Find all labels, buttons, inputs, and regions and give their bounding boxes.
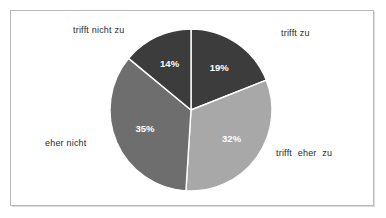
slice-value-eher-nicht: 35% [135, 123, 155, 134]
category-label-trifft-eher-zu: trifft eher zu [276, 148, 332, 158]
category-label-trifft-zu: trifft zu [281, 28, 310, 38]
slice-value-trifft-eher-zu: 32% [222, 133, 242, 144]
category-label-eher-nicht: eher nicht [45, 138, 87, 148]
slice-value-trifft-nicht-zu: 14% [160, 58, 180, 69]
slice-value-trifft-zu: 19% [210, 62, 230, 73]
pie-graphic: 19% 32% 35% 14% [0, 0, 386, 218]
plot-area: 19% 32% 35% 14% trifft zu trifft eher zu… [0, 0, 386, 218]
category-label-trifft-nicht-zu: trifft nicht zu [73, 25, 124, 35]
pie-chart-figure: 19% 32% 35% 14% trifft zu trifft eher zu… [0, 0, 386, 218]
